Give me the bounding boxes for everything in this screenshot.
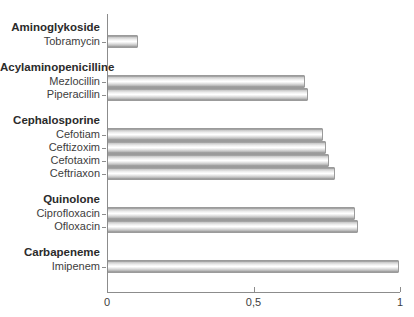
plot-area xyxy=(107,207,400,220)
group-cephalosporine: CephalosporineCefotiamCeftizoximCefotaxi… xyxy=(0,113,414,180)
data-bar xyxy=(107,220,358,233)
group-header-label: Carbapeneme xyxy=(0,246,107,259)
data-bar xyxy=(107,75,305,88)
x-tick-mark xyxy=(254,287,255,292)
group-header-label: Cephalosporine xyxy=(0,114,107,127)
chart-rows: AminoglykosideTobramycinAcylaminopenicil… xyxy=(0,0,414,285)
bar-label: Mezlocillin xyxy=(0,75,107,88)
category-tick xyxy=(102,82,106,83)
data-bar xyxy=(107,207,355,220)
group-header-label: Quinolone xyxy=(0,193,107,206)
category-tick xyxy=(102,161,106,162)
group-header-label: Aminoglykoside xyxy=(0,21,107,34)
category-tick xyxy=(102,174,106,175)
bar-row: Ceftriaxon xyxy=(0,167,414,180)
y-axis-line xyxy=(107,14,108,292)
category-tick xyxy=(102,135,106,136)
category-tick xyxy=(102,95,106,96)
plot-area xyxy=(107,88,400,101)
bar-label: Imipenem xyxy=(0,260,107,273)
data-bar xyxy=(107,260,399,273)
data-bar xyxy=(107,141,326,154)
bar-label: Ceftizoxim xyxy=(0,141,107,154)
plot-area xyxy=(107,260,400,273)
category-tick xyxy=(102,42,106,43)
group-quinolone: QuinoloneCiprofloxacinOfloxacin xyxy=(0,192,414,233)
category-tick xyxy=(102,267,106,268)
bar-label: Ofloxacin xyxy=(0,220,107,233)
plot-area xyxy=(107,141,400,154)
bar-label: Tobramycin xyxy=(0,35,107,48)
data-bar xyxy=(107,35,138,48)
antibiotic-sensitivity-bar-chart: AminoglykosideTobramycinAcylaminopenicil… xyxy=(0,0,414,317)
x-tick-label: 0 xyxy=(104,296,110,308)
bar-label: Cefotaxim xyxy=(0,154,107,167)
group-carbapeneme: CarbapenemeImipenem xyxy=(0,245,414,273)
group-header-label: Acylaminopenicilline xyxy=(0,61,107,74)
data-bar xyxy=(107,88,308,101)
group-aminoglykoside: AminoglykosideTobramycin xyxy=(0,20,414,48)
data-bar xyxy=(107,154,329,167)
plot-area xyxy=(107,154,400,167)
bar-row: Ciprofloxacin xyxy=(0,207,414,220)
plot-area xyxy=(107,220,400,233)
bar-row: Ofloxacin xyxy=(0,220,414,233)
bar-row: Imipenem xyxy=(0,260,414,273)
bar-row: Tobramycin xyxy=(0,35,414,48)
data-bar xyxy=(107,167,335,180)
plot-area xyxy=(107,75,400,88)
bar-row: Piperacillin xyxy=(0,88,414,101)
x-tick-label: 1 xyxy=(397,296,403,308)
plot-area xyxy=(107,35,400,48)
bar-label: Cefotiam xyxy=(0,128,107,141)
bar-label: Ceftriaxon xyxy=(0,167,107,180)
bar-row: Ceftizoxim xyxy=(0,141,414,154)
bar-label: Piperacillin xyxy=(0,88,107,101)
group-acylaminopenicilline: AcylaminopenicillineMezlocillinPiperacil… xyxy=(0,60,414,101)
plot-area xyxy=(107,128,400,141)
x-tick-mark xyxy=(400,287,401,292)
plot-area xyxy=(107,167,400,180)
bar-row: Mezlocillin xyxy=(0,75,414,88)
bar-row: Cefotaxim xyxy=(0,154,414,167)
category-tick xyxy=(102,227,106,228)
category-tick xyxy=(102,148,106,149)
bar-label: Ciprofloxacin xyxy=(0,207,107,220)
x-tick-label: 0,5 xyxy=(246,296,261,308)
data-bar xyxy=(107,128,323,141)
category-tick xyxy=(102,214,106,215)
x-axis-line xyxy=(107,292,400,293)
bar-row: Cefotiam xyxy=(0,128,414,141)
